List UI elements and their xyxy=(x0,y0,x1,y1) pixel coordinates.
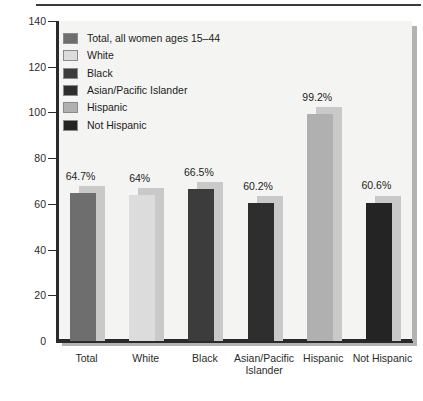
x-axis-tick-label-line: Not Hispanic xyxy=(346,352,418,364)
legend-item-label: Total, all women ages 15–44 xyxy=(87,33,220,44)
chart-legend: Total, all women ages 15–44WhiteBlackAsi… xyxy=(63,30,273,134)
chart-figure: 140120100806040200 64.7%64%66.5%60.2%99.… xyxy=(0,0,423,401)
legend-swatch-icon xyxy=(63,50,78,61)
bar-value-label: 60.2% xyxy=(229,181,288,192)
bar[interactable] xyxy=(248,203,274,341)
x-axis-tick-label: Not Hispanic xyxy=(346,352,418,364)
bar-value-label: 60.6% xyxy=(347,180,406,191)
bar-group[interactable]: 60.6% xyxy=(353,21,412,341)
bar-value-label: 64.7% xyxy=(51,171,110,182)
bar-group[interactable]: 99.2% xyxy=(294,21,353,341)
x-axis-line xyxy=(56,341,413,343)
x-axis-tick-label-line: Islander xyxy=(228,364,300,376)
bar[interactable] xyxy=(307,114,333,341)
top-divider-rule xyxy=(36,4,421,6)
y-axis-tick-label: 0 xyxy=(2,336,46,346)
y-axis-tick-label: 40 xyxy=(2,245,46,255)
legend-item-label: Not Hispanic xyxy=(87,120,147,131)
legend-swatch-icon xyxy=(63,68,78,79)
y-axis-tick-label: 80 xyxy=(2,153,46,163)
bar[interactable] xyxy=(188,189,214,341)
y-axis-tick-label: 20 xyxy=(2,290,46,300)
legend-item[interactable]: Total, all women ages 15–44 xyxy=(63,30,273,47)
legend-item[interactable]: White xyxy=(63,47,273,64)
y-axis-tick-label: 100 xyxy=(2,107,46,117)
bar-value-label: 64% xyxy=(110,173,169,184)
legend-swatch-icon xyxy=(63,33,78,44)
y-axis-tick-label: 120 xyxy=(2,62,46,72)
y-axis-tick-label: 60 xyxy=(2,199,46,209)
legend-item[interactable]: Black xyxy=(63,65,273,82)
legend-item[interactable]: Asian/Pacific Islander xyxy=(63,82,273,99)
y-axis-tick-label: 140 xyxy=(2,16,46,26)
legend-swatch-icon xyxy=(63,120,78,131)
legend-item-label: White xyxy=(87,50,114,61)
bar[interactable] xyxy=(70,193,96,341)
x-axis-labels: TotalWhiteBlackAsian/PacificIslanderHisp… xyxy=(57,352,412,392)
bar-value-label: 99.2% xyxy=(288,92,347,103)
legend-item[interactable]: Not Hispanic xyxy=(63,116,273,133)
bar[interactable] xyxy=(129,195,155,341)
legend-item[interactable]: Hispanic xyxy=(63,99,273,116)
bar-value-label: 66.5% xyxy=(169,167,228,178)
legend-item-label: Hispanic xyxy=(87,102,127,113)
legend-item-label: Black xyxy=(87,68,113,79)
legend-item-label: Asian/Pacific Islander xyxy=(87,85,187,96)
bar[interactable] xyxy=(366,203,392,342)
legend-swatch-icon xyxy=(63,85,78,96)
legend-swatch-icon xyxy=(63,102,78,113)
